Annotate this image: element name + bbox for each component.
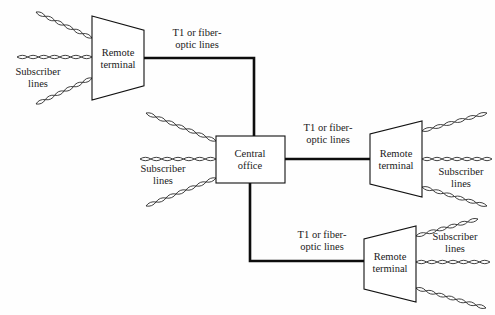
node-rt-top-left[interactable] xyxy=(92,16,144,100)
trunk-label-trunk-label-mid: T1 or fiber-optic lines xyxy=(304,122,353,145)
subscriber-line xyxy=(422,187,487,207)
node-label-rt-bottom-right: Remoteterminal xyxy=(373,251,408,274)
subscriber-label-sub-label-top-left: Subscriberlines xyxy=(16,66,61,89)
nodes-layer xyxy=(92,16,422,302)
subscriber-line xyxy=(146,113,216,141)
subscriber-line xyxy=(17,55,92,58)
subscriber-line xyxy=(422,157,492,160)
subscriber-label-sub-label-mid-right: Subscriberlines xyxy=(439,166,484,189)
network-diagram: RemoteterminalCentralofficeRemotetermina… xyxy=(0,0,495,315)
subscriber-line xyxy=(416,287,486,308)
subscriber-line xyxy=(422,113,487,132)
subscriber-line xyxy=(140,157,216,160)
subscriber-label-sub-label-bottom-right: Subscriberlines xyxy=(433,231,478,254)
subscriber-line xyxy=(36,12,92,38)
node-rt-mid-right[interactable] xyxy=(370,121,422,197)
trunk-label-trunk-label-top: T1 or fiber-optic lines xyxy=(173,27,222,50)
subscriber-line xyxy=(416,260,490,263)
node-label-rt-top-left: Remoteterminal xyxy=(101,47,136,70)
trunk-line xyxy=(144,58,254,136)
subscriber-label-sub-label-center: Subscriberlines xyxy=(141,163,186,186)
node-label-central-office: Centraloffice xyxy=(235,148,266,171)
trunk-label-trunk-label-bottom: T1 or fiber-optic lines xyxy=(298,229,347,252)
diagram-canvas: RemoteterminalCentralofficeRemotetermina… xyxy=(0,0,495,315)
node-label-rt-mid-right: Remoteterminal xyxy=(379,148,414,171)
